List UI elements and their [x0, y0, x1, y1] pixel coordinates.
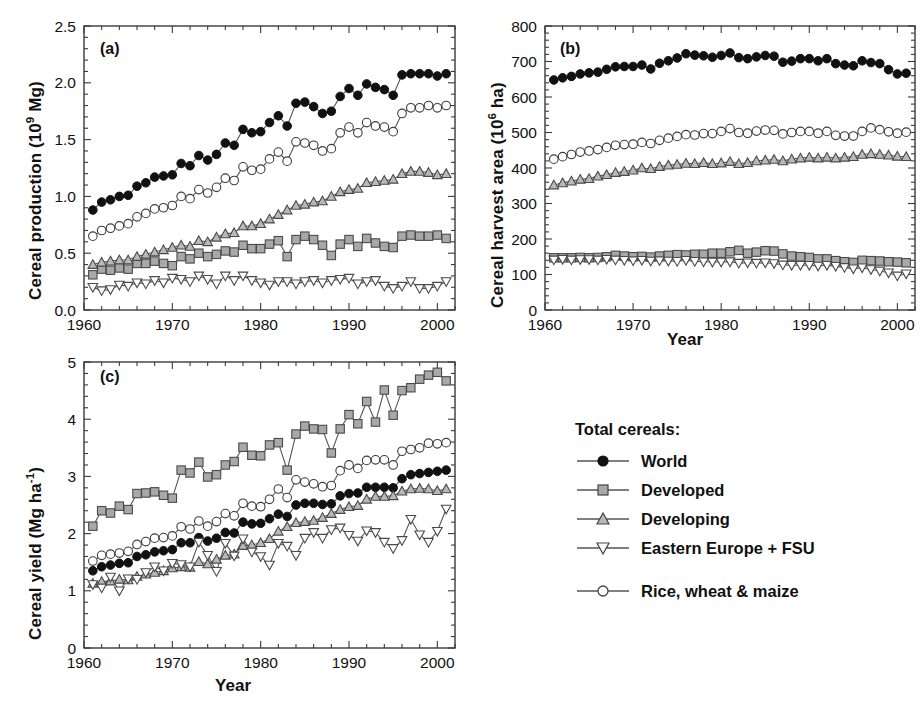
- panel-c-x-axis-title: Year: [215, 676, 251, 696]
- legend-label-rice-wheat-maize: Rice, wheat & maize: [641, 582, 799, 601]
- panel-c-y-axis-title: Cereal yield (Mg ha-1): [26, 467, 46, 640]
- legend-item-rice-wheat-maize: Rice, wheat & maize: [575, 580, 799, 602]
- panel-a-y-axis-title: Cereal production (109 Mg): [26, 81, 46, 300]
- x-tick-label: 1980: [243, 316, 278, 333]
- legend-label-developing: Developing: [641, 510, 730, 529]
- legend-item-world: World: [575, 450, 687, 472]
- y-tick-label: 2: [67, 525, 76, 542]
- panel-b-tag: (b): [560, 40, 580, 58]
- legend-item-developed: Developed: [575, 479, 724, 501]
- series-markers-world: [89, 466, 451, 575]
- panel-b-x-axis-title: Year: [667, 330, 703, 350]
- x-tick-label: 1990: [332, 654, 367, 671]
- panel-b-y-axis-title: Cereal harvest area (106 ha): [488, 82, 508, 308]
- y-tick-label: 0: [67, 640, 76, 657]
- x-tick-label: 1960: [528, 316, 563, 333]
- legend-item-developing: Developing: [575, 508, 730, 530]
- y-tick-label: 600: [511, 89, 537, 106]
- legend-label-developed: Developed: [641, 481, 724, 500]
- x-tick-label: 2000: [880, 316, 915, 333]
- panel-b-plot: 1960197019801990200001002003004005006007…: [462, 0, 924, 320]
- y-tick-label: 5: [67, 354, 76, 371]
- panel-a-tag: (a): [100, 40, 120, 58]
- legend-label-eastern-europe-fsu: Eastern Europe + FSU: [641, 539, 815, 558]
- legend-marker-world: [575, 452, 631, 470]
- panel-a-plot: 196019701980199020000.00.51.01.52.02.5: [0, 0, 470, 340]
- y-tick-label: 100: [511, 266, 537, 283]
- x-tick-label: 1990: [332, 316, 367, 333]
- panel-a-cereal-production: Cereal production (109 Mg) (a) 196019701…: [0, 0, 470, 340]
- y-tick-label: 400: [511, 160, 537, 177]
- y-tick-label: 1.5: [54, 131, 76, 148]
- panel-c-tag: (c): [100, 368, 120, 386]
- y-tick-label: 2.5: [54, 18, 76, 35]
- x-tick-label: 2000: [420, 654, 455, 671]
- panel-c-plot: 19601970198019902000012345: [0, 340, 470, 670]
- y-tick-label: 700: [511, 53, 537, 70]
- x-tick-label: 1960: [67, 316, 102, 333]
- y-tick-label: 0.0: [54, 302, 76, 319]
- x-tick-label: 1990: [792, 316, 827, 333]
- y-tick-label: 4: [67, 411, 76, 428]
- legend: Total cereals: World Developed Developin…: [575, 420, 915, 610]
- series-markers-developed: [89, 368, 451, 530]
- series-markers-world: [89, 69, 451, 214]
- legend-label-world: World: [641, 452, 687, 471]
- x-tick-label: 2000: [420, 316, 455, 333]
- y-tick-label: 800: [511, 18, 537, 35]
- legend-item-eastern-europe-fsu: Eastern Europe + FSU: [575, 537, 815, 559]
- x-tick-label: 1970: [155, 316, 190, 333]
- y-tick-label: 3: [67, 468, 76, 485]
- legend-marker-rice-wheat-maize: [575, 582, 631, 600]
- y-tick-label: 200: [511, 231, 537, 248]
- x-tick-label: 1960: [67, 654, 102, 671]
- y-tick-label: 0.5: [54, 245, 76, 262]
- panel-b-cereal-harvest-area: Cereal harvest area (106 ha) (b) 1960197…: [462, 0, 924, 360]
- y-tick-label: 1.0: [54, 188, 76, 205]
- x-tick-label: 1970: [155, 654, 190, 671]
- y-tick-label: 0: [528, 302, 537, 319]
- legend-marker-developing: [575, 510, 631, 528]
- y-tick-label: 500: [511, 124, 537, 141]
- y-tick-label: 1: [67, 582, 76, 599]
- legend-marker-eastern-europe-fsu: [575, 539, 631, 557]
- x-tick-label: 1970: [616, 316, 651, 333]
- legend-marker-developed: [575, 481, 631, 499]
- legend-title: Total cereals:: [575, 420, 680, 439]
- y-tick-label: 300: [511, 195, 537, 212]
- y-tick-label: 2.0: [54, 74, 76, 91]
- series-markers-world: [550, 49, 911, 85]
- panel-c-cereal-yield: Cereal yield (Mg ha-1) (c) 1960197019801…: [0, 340, 470, 714]
- series-markers-developing: [549, 149, 911, 189]
- x-tick-label: 1980: [243, 654, 278, 671]
- x-tick-label: 1980: [704, 316, 739, 333]
